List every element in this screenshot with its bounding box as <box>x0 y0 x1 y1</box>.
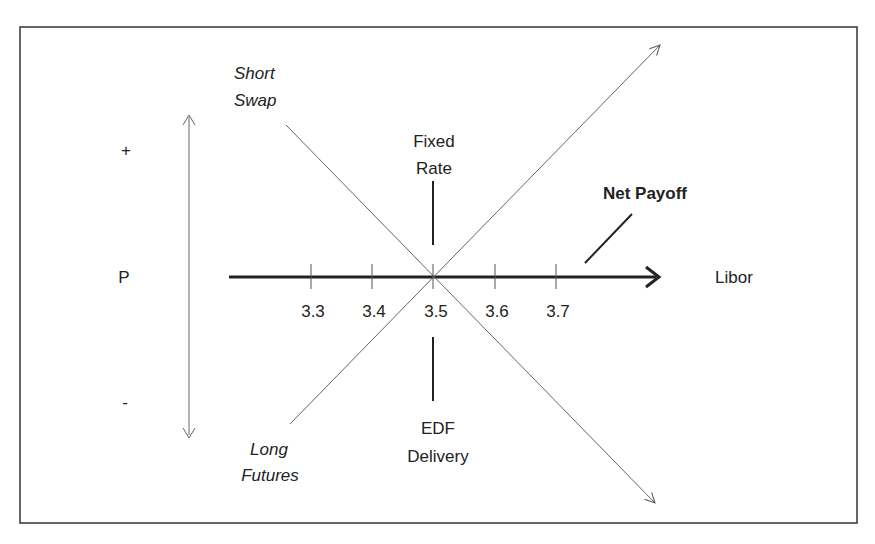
net-payoff-leader <box>585 214 632 263</box>
net-payoff-label: Net Payoff <box>603 184 687 203</box>
edf-delivery-label: Delivery <box>407 447 469 466</box>
y-axis-label: P <box>118 268 129 287</box>
short-swap-label: Short <box>234 64 276 83</box>
fixed-rate-label: Rate <box>416 159 452 178</box>
short-swap-label: Swap <box>234 91 277 110</box>
edf-delivery-label: EDF <box>421 419 455 438</box>
tick-label: 3.3 <box>301 302 325 321</box>
long-futures-label: Futures <box>241 466 299 485</box>
y-axis-minus: - <box>122 393 128 412</box>
tick-label: 3.7 <box>546 302 570 321</box>
long-futures-label: Long <box>250 440 288 459</box>
y-axis-plus: + <box>121 141 131 160</box>
x-axis-label: Libor <box>715 268 753 287</box>
long-futures-line <box>290 45 660 424</box>
tick-label: 3.5 <box>424 302 448 321</box>
tick-label: 3.4 <box>362 302 386 321</box>
fixed-rate-label: Fixed <box>413 132 455 151</box>
short-swap-line <box>286 125 655 503</box>
payoff-diagram: + P - 3.3 3.4 3.5 3.6 3.7 Libor Short Sw… <box>0 0 875 544</box>
x-axis <box>229 264 659 289</box>
y-axis <box>183 115 195 438</box>
tick-label: 3.6 <box>485 302 509 321</box>
